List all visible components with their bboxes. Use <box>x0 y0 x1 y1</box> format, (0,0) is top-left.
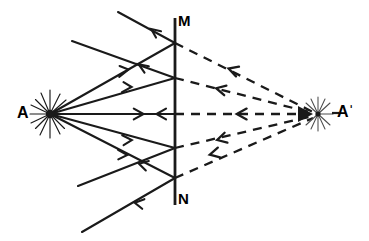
virtual-ray-1 <box>175 43 313 112</box>
incident-ray-1 <box>50 43 175 114</box>
virtual-ray-5 <box>175 118 313 178</box>
incident-ray-2 <box>50 78 175 114</box>
incident-arrowhead-group <box>118 66 144 159</box>
incident-ray-4 <box>50 114 175 148</box>
label-mirror-top-m: M <box>178 13 191 28</box>
incident-ray-group <box>50 43 175 178</box>
virtual-arrowhead-5 <box>210 148 220 158</box>
source-point-dot <box>46 110 54 118</box>
reflected-ray-5 <box>82 178 175 232</box>
optics-ray-diagram: A Aˈ M N <box>0 0 369 241</box>
virtual-ray-4 <box>175 116 313 148</box>
incident-arrowhead-5 <box>118 150 127 160</box>
reflected-ray-1 <box>118 12 175 43</box>
image-point-dot <box>315 111 320 116</box>
virtual-ray-2 <box>175 78 313 113</box>
incident-ray-5 <box>50 114 175 178</box>
label-mirror-bottom-n: N <box>178 191 189 206</box>
virtual-arrowhead-group <box>210 67 247 158</box>
reflected-ray-group <box>72 12 175 232</box>
label-image-a-prime: Aˈ <box>337 104 354 120</box>
reflected-arrowhead-4 <box>139 161 149 170</box>
label-source-a: A <box>17 105 29 121</box>
